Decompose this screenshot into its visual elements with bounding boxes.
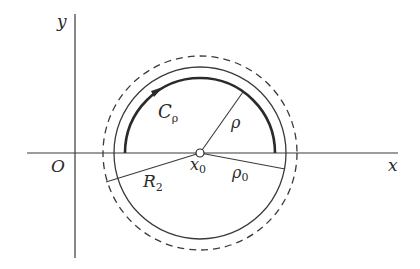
diagram-canvas: y x O Cρ x0 ρ ρ0 R2 [0,0,420,269]
origin-label: O [51,156,65,176]
contour-label: Cρ [158,101,178,125]
x-axis-label: x [388,155,398,175]
radius-rho0-label: ρ0 [231,163,248,184]
radius-rho-label: ρ [230,113,241,132]
center-label: x0 [190,155,206,176]
y-axis-label: y [56,11,67,31]
radius-rho0-line [200,153,285,169]
radius-R2-label: R2 [142,171,163,194]
contour-arc-c-rho [125,78,275,153]
